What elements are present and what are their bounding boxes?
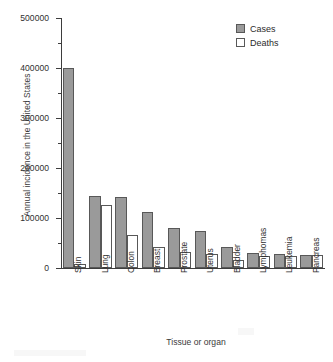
legend-swatch-cases-icon <box>236 24 245 33</box>
bar-group <box>61 18 87 268</box>
bar-group <box>193 18 219 268</box>
y-tick-label: 400000 <box>20 64 49 73</box>
x-tick-label-colon: Colon <box>126 251 136 273</box>
bar-group <box>114 18 140 268</box>
plot-area: 0100000200000300000400000500000 <box>61 18 325 268</box>
y-tick-major: 0 <box>56 268 62 269</box>
legend-item-cases: Cases <box>236 22 279 35</box>
x-tick-label-skin: Skin <box>73 257 83 273</box>
bar-group <box>272 18 298 268</box>
cancer-incidence-bar-chart: Annual incidence in the United States 01… <box>0 0 333 362</box>
x-tick-label-lymphomas: Lymphomas <box>258 228 268 273</box>
bar-group <box>87 18 113 268</box>
x-tick-label-breast: Breast <box>152 249 162 273</box>
y-tick-label: 200000 <box>20 164 49 173</box>
bar-cases-bladder <box>221 247 233 268</box>
y-tick-label: 100000 <box>20 214 49 223</box>
bar-group <box>299 18 325 268</box>
x-tick-label-leukemia: Leukemia <box>284 237 294 273</box>
bar-group <box>167 18 193 268</box>
x-tick-label-uterus: Uterus <box>205 248 215 273</box>
legend-label: Deaths <box>250 38 279 48</box>
x-tick-label-lung: Lung <box>100 254 110 273</box>
bar-cases-lung <box>89 196 101 269</box>
legend-swatch-deaths-icon <box>236 38 245 47</box>
x-tick-label-bladder: Bladder <box>232 244 242 273</box>
scan-artifact-bottom <box>14 350 86 356</box>
x-tick-label-prostate: Prostate <box>179 242 189 273</box>
chart-legend: CasesDeaths <box>236 22 279 50</box>
bar-cases-skin <box>63 68 75 268</box>
bar-series-group <box>61 18 325 268</box>
bar-group <box>140 18 166 268</box>
x-tick-label-pancreas: Pancreas <box>311 238 321 273</box>
scan-artifact-top <box>238 328 254 335</box>
legend-label: Cases <box>250 24 276 34</box>
legend-item-deaths: Deaths <box>236 36 279 49</box>
y-tick-label: 500000 <box>20 14 49 23</box>
bar-group <box>219 18 245 268</box>
x-axis-title: Tissue or organ <box>60 337 332 347</box>
y-tick-label: 300000 <box>20 114 49 123</box>
y-tick-label: 0 <box>44 264 49 273</box>
